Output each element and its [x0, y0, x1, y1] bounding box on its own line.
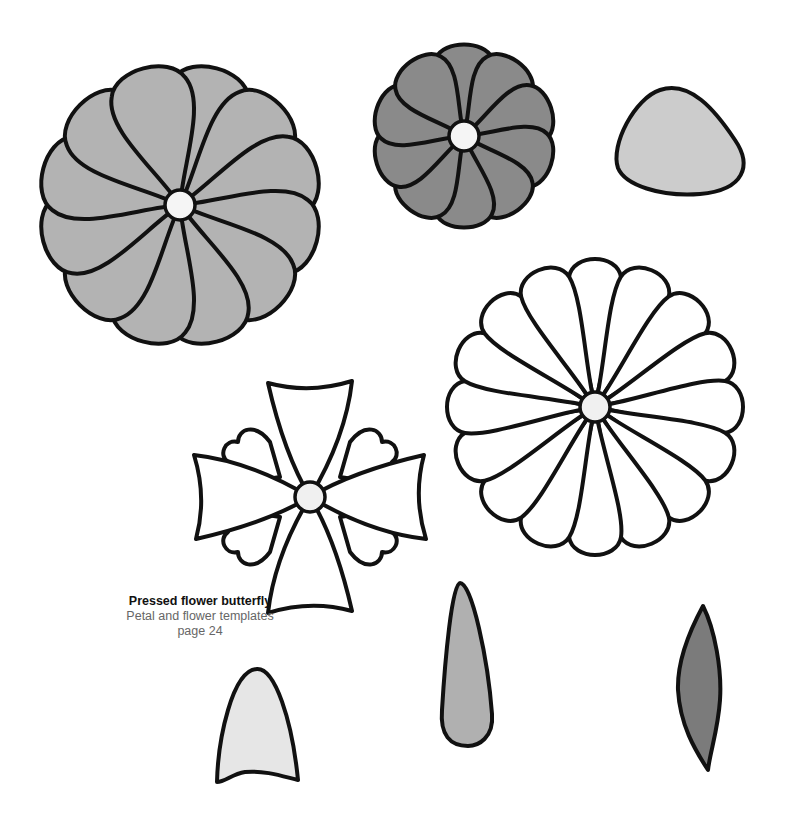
large-12-petal-flower: [33, 58, 328, 353]
flower-center: [449, 121, 479, 151]
teardrop-petal: [442, 583, 492, 746]
four-petal-flower: [194, 381, 426, 613]
arch-petal: [217, 669, 298, 782]
flower-center: [165, 190, 195, 220]
flower-center: [580, 392, 610, 422]
template-caption: Pressed flower butterfly Petal and flowe…: [120, 594, 280, 639]
leaf: [678, 606, 720, 770]
caption-page: page 24: [120, 624, 280, 639]
caption-subtitle: Petal and flower templates: [120, 609, 280, 624]
small-10-petal-flower: [368, 44, 561, 227]
templates-canvas: [0, 0, 788, 827]
flower-center: [295, 482, 325, 512]
rounded-triangle-petal: [616, 88, 743, 194]
caption-title: Pressed flower butterfly: [120, 594, 280, 609]
daisy-16-petal-flower: [447, 259, 743, 555]
